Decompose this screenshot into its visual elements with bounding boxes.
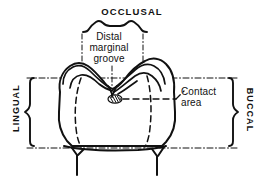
label-buccal: BUCCAL: [245, 75, 255, 145]
label-distal-marginal-groove: Distal marginal groove: [78, 31, 140, 65]
brace-lingual-icon: [25, 78, 34, 146]
label-contact-area: Contact area: [181, 86, 251, 108]
label-occlusal: OCCLUSAL: [0, 7, 264, 18]
label-lingual: LINGUAL: [11, 73, 21, 143]
dental-diagram: OCCLUSAL Distal marginal groove Contact …: [0, 0, 264, 185]
